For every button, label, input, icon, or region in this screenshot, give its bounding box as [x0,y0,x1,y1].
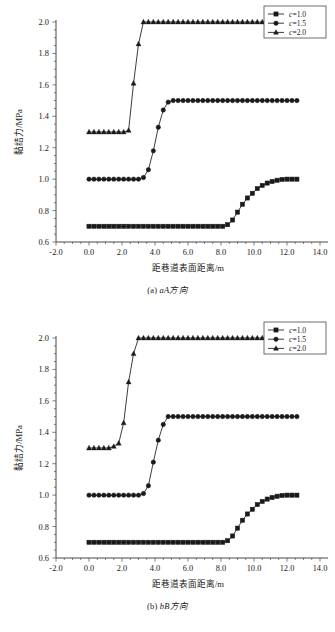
marker-square [127,224,131,228]
marker-square [211,540,215,544]
marker-square [285,177,289,181]
marker-circle [235,414,239,418]
marker-square [201,540,205,544]
x-axis-title: 距巷道表面距离/m [152,262,224,273]
marker-circle [107,493,111,497]
marker-square [161,224,165,228]
marker-circle [102,177,106,181]
marker-square [171,224,175,228]
y-tick-label: 0.6 [39,554,49,563]
legend: c=1.0c=1.5c=2.0 [264,6,326,38]
marker-circle [196,98,200,102]
marker-circle [225,98,229,102]
marker-square [156,224,160,228]
y-tick-label: 0.6 [39,238,49,247]
marker-circle [146,484,150,488]
x-tick-label: 14.0 [313,564,328,573]
marker-square [235,526,239,530]
marker-circle [97,493,101,497]
y-axis-title: 黏结力/MPa [13,109,24,155]
marker-triangle [136,41,141,46]
marker-circle [186,414,190,418]
caption-a-direction: aA方向 [160,285,188,295]
marker-square [141,224,145,228]
marker-square [290,493,294,497]
series-line [89,101,297,180]
x-tick-label: 10.0 [247,248,262,257]
marker-square [181,540,185,544]
x-tick-label: -2.0 [49,564,62,573]
marker-circle [181,414,185,418]
marker-circle [191,414,195,418]
marker-square [255,186,259,190]
series-line [89,22,297,132]
marker-square [275,178,279,182]
x-tick-label: -2.0 [49,248,62,257]
chart-svg-a: -2.00.02.04.06.08.010.012.014.00.60.81.0… [0,0,335,284]
marker-circle [112,493,116,497]
marker-square [97,224,101,228]
marker-square [151,224,155,228]
marker-square [274,328,278,332]
x-tick-label: 0.0 [84,564,94,573]
marker-circle [161,422,165,426]
marker-circle [112,177,116,181]
legend-label: c=1.0 [289,10,306,19]
marker-square [92,224,96,228]
marker-square [270,495,274,499]
marker-circle [211,98,215,102]
marker-square [250,507,254,511]
marker-circle [220,98,224,102]
marker-circle [245,98,249,102]
plot-area-a: -2.00.02.04.06.08.010.012.014.00.60.81.0… [0,0,335,284]
marker-square [226,539,230,543]
series-c10 [87,493,299,544]
marker-circle [274,337,278,341]
marker-square [206,540,210,544]
marker-triangle [126,128,131,133]
legend-label: c=2.0 [289,28,306,37]
marker-square [295,177,299,181]
y-tick-label: 1.2 [39,460,49,469]
x-tick-label: 12.0 [280,564,295,573]
marker-circle [121,177,125,181]
x-tick-label: 2.0 [117,564,127,573]
marker-square [260,183,264,187]
marker-square [112,540,116,544]
marker-circle [126,493,130,497]
marker-circle [156,438,160,442]
series-line [89,338,297,448]
marker-circle [290,414,294,418]
marker-circle [285,414,289,418]
legend: c=1.0c=1.5c=2.0 [264,322,326,354]
marker-square [290,177,294,181]
marker-circle [136,177,140,181]
legend-label: c=2.0 [289,344,306,353]
marker-square [92,540,96,544]
marker-square [122,540,126,544]
marker-circle [280,414,284,418]
marker-circle [121,493,125,497]
caption-a: (a) aA方向 [0,283,335,295]
marker-circle [270,414,274,418]
marker-circle [186,98,190,102]
marker-circle [176,414,180,418]
marker-square [191,224,195,228]
marker-circle [285,98,289,102]
series-c10 [87,177,299,228]
marker-square [201,224,205,228]
marker-circle [201,98,205,102]
marker-circle [295,414,299,418]
marker-circle [117,177,121,181]
marker-circle [230,98,234,102]
x-tick-label: 4.0 [150,248,160,257]
marker-circle [220,414,224,418]
caption-b-direction: bB方向 [160,601,188,611]
marker-circle [171,98,175,102]
marker-square [240,518,244,522]
figure-panel-b: -2.00.02.04.06.08.010.012.014.00.60.81.0… [0,316,335,632]
marker-triangle [116,441,121,446]
y-tick-label: 1.0 [39,491,49,500]
marker-square [216,540,220,544]
marker-circle [295,98,299,102]
